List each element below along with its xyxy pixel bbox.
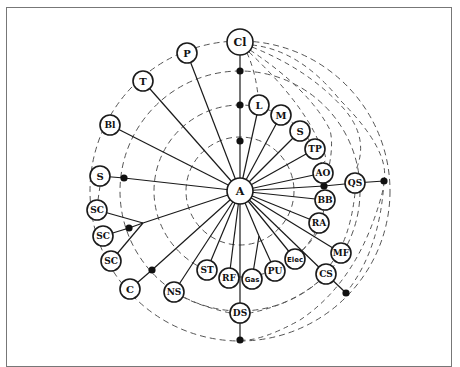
- node-ns[interactable]: NS: [164, 282, 184, 302]
- node-pu[interactable]: PU: [265, 261, 285, 281]
- node-ao[interactable]: AO: [313, 163, 333, 183]
- junction-dot: [236, 336, 243, 343]
- node-label: PU: [268, 266, 283, 276]
- node-sc3[interactable]: SC: [101, 251, 121, 271]
- dash-cs-ds: [250, 282, 318, 313]
- dash-s-sc: [98, 186, 100, 200]
- junction-dot: [148, 266, 155, 273]
- node-label: S: [96, 171, 103, 182]
- junction-dot: [236, 137, 243, 144]
- node-m[interactable]: M: [271, 105, 291, 125]
- junction-dot: [236, 67, 243, 74]
- node-c[interactable]: C: [120, 279, 140, 299]
- junction-dot: [120, 174, 127, 181]
- node-cl[interactable]: Cl: [227, 29, 253, 55]
- node-qs[interactable]: QS: [345, 173, 365, 193]
- node-ra[interactable]: RA: [309, 213, 329, 233]
- node-label: Bl: [104, 120, 116, 130]
- node-elec[interactable]: Elec: [285, 249, 305, 269]
- node-label: C: [126, 284, 134, 295]
- node-l[interactable]: L: [249, 95, 269, 115]
- node-a[interactable]: A: [227, 178, 253, 204]
- node-s-right[interactable]: S: [290, 121, 310, 141]
- spoke-P: [187, 53, 240, 191]
- node-st[interactable]: ST: [197, 260, 217, 280]
- node-bb[interactable]: BB: [315, 190, 335, 210]
- node-label: M: [275, 110, 286, 121]
- node-label: SC: [104, 256, 118, 266]
- line-junction-a: [124, 178, 240, 191]
- node-label: ST: [200, 265, 213, 275]
- junction-dot: [236, 101, 243, 108]
- dash-ra-elec: [299, 233, 317, 252]
- node-label: DS: [233, 308, 247, 318]
- junction-dot: [380, 177, 387, 184]
- node-label: RA: [312, 218, 327, 228]
- node-gas[interactable]: Gas: [242, 269, 262, 289]
- node-tp[interactable]: TP: [305, 139, 325, 159]
- node-label: S: [296, 126, 303, 137]
- node-label: MF: [333, 248, 350, 258]
- node-s-left[interactable]: S: [90, 166, 110, 186]
- node-ds[interactable]: DS: [230, 303, 250, 323]
- node-label: SC: [96, 231, 110, 241]
- node-label: Cl: [234, 36, 247, 49]
- spoke-T: [143, 81, 240, 191]
- node-rf[interactable]: RF: [219, 268, 239, 288]
- node-p[interactable]: P: [177, 43, 197, 63]
- node-sc1[interactable]: SC: [87, 200, 107, 220]
- node-label: L: [255, 100, 262, 111]
- node-sc2[interactable]: SC: [93, 226, 113, 246]
- spoke-CS: [240, 191, 326, 274]
- node-label: P: [183, 48, 191, 59]
- node-label: CS: [319, 269, 333, 279]
- junction-dot: [342, 289, 349, 296]
- node-label: QS: [348, 178, 362, 188]
- node-t[interactable]: T: [133, 71, 153, 91]
- node-label: AO: [315, 168, 331, 178]
- node-label: BB: [317, 195, 333, 205]
- node-label: Gas: [245, 276, 260, 284]
- node-label: RF: [222, 273, 236, 283]
- node-label: TP: [308, 144, 322, 154]
- node-label: Elec: [287, 256, 303, 264]
- dash-ds-ns: [183, 297, 230, 313]
- node-cs[interactable]: CS: [316, 264, 336, 284]
- junction-dot: [125, 224, 132, 231]
- node-mf[interactable]: MF: [331, 243, 351, 263]
- dash-qsdot-cs: [346, 181, 384, 293]
- node-label: T: [139, 76, 147, 87]
- node-label: A: [235, 185, 245, 198]
- node-label: SC: [90, 205, 104, 215]
- node-label: NS: [167, 287, 182, 297]
- line-a-sc-branch: [143, 191, 240, 223]
- node-bl[interactable]: Bl: [100, 115, 120, 135]
